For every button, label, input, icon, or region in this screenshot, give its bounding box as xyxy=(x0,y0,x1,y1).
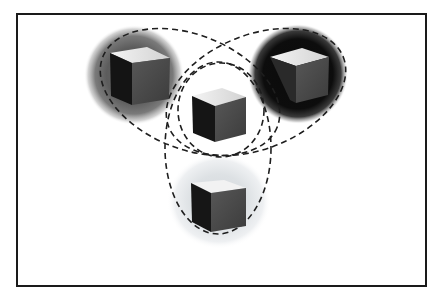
cube-bottom xyxy=(191,180,246,232)
cube-center xyxy=(192,88,246,142)
diagram-canvas xyxy=(0,0,437,296)
venn-diagram xyxy=(0,0,437,296)
cube-top-left xyxy=(110,47,170,105)
